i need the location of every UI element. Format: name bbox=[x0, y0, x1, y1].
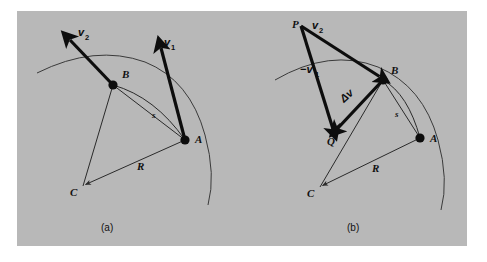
panel-a-group: B A C R s v 2 v 1 (a) bbox=[37, 26, 211, 233]
physics-figure: B A C R s v 2 v 1 (a) bbox=[0, 0, 487, 262]
panel-b-label-p: P bbox=[292, 18, 299, 30]
panel-b-label-neg-v1: −v 1 bbox=[300, 63, 319, 79]
panel-b-label-s: s bbox=[394, 109, 399, 119]
panel-b-label-a: A bbox=[429, 132, 437, 144]
panel-b-label-delta-v: Δv bbox=[337, 86, 356, 105]
panel-a-label-v2: v 2 bbox=[78, 26, 89, 42]
panel-a-label-v1: v 1 bbox=[164, 36, 175, 52]
panel-a-radius-ca bbox=[86, 140, 186, 185]
panel-a-label-c: C bbox=[70, 186, 78, 198]
panel-a-label-v1-base: v bbox=[164, 36, 171, 48]
panel-b-label-v2-sub: 2 bbox=[319, 26, 323, 35]
panel-a-v2-arrow bbox=[70, 40, 113, 85]
panel-b-caption: (b) bbox=[347, 222, 359, 233]
panel-b-label-q: Q bbox=[327, 135, 335, 147]
panel-b-label-neg-v1-sub: 1 bbox=[315, 70, 319, 79]
panel-a-point-b-dot bbox=[108, 80, 117, 89]
panel-a-label-v1-sub: 1 bbox=[171, 43, 175, 52]
panel-b-label-neg-v1-base: −v bbox=[300, 63, 313, 75]
panel-b-point-b-dot bbox=[378, 75, 387, 84]
panel-b-label-c: C bbox=[307, 187, 315, 199]
panel-b-label-b: B bbox=[390, 64, 398, 76]
panel-a-point-a-dot bbox=[180, 135, 189, 144]
panel-b-group: B A C R s P Q v 2 −v 1 Δv (b) bbox=[275, 18, 444, 233]
panel-b-label-r: R bbox=[371, 162, 379, 174]
panel-a-label-v2-sub: 2 bbox=[85, 33, 89, 42]
figure-svg: B A C R s v 2 v 1 (a) bbox=[0, 0, 487, 262]
panel-a-v1-arrow bbox=[161, 48, 185, 140]
panel-a-label-a: A bbox=[194, 133, 202, 145]
panel-b-chord-ba bbox=[383, 80, 420, 138]
panel-a-label-v2-base: v bbox=[78, 26, 85, 38]
panel-a-radius-cb bbox=[83, 85, 113, 186]
panel-b-point-a-dot bbox=[415, 133, 424, 142]
panel-a-label-r: R bbox=[136, 160, 144, 172]
panel-a-label-b: B bbox=[121, 68, 129, 80]
panel-a-caption: (a) bbox=[101, 222, 113, 233]
panel-a-label-s: s bbox=[151, 110, 156, 120]
panel-b-label-v2-base: v bbox=[312, 19, 319, 31]
